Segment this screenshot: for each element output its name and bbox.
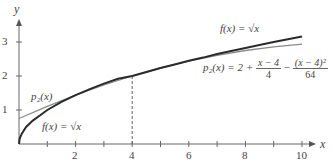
frac1-den: 4 [256,69,281,80]
p2-label-left: p₂(x) [31,90,53,102]
y-tick-label-2: 2 [2,69,8,81]
y-tick-label-3: 3 [2,35,8,47]
f-label-top: f(x) = √x [220,22,259,34]
x-tick-label-8: 8 [242,149,248,161]
p2-eq-lhs: p₂(x) = 2 + [203,61,253,73]
x-axis-label: x [320,137,325,152]
p2-eq-frac1: x − 44 [256,57,281,80]
p2-equation: p₂(x) = 2 + x − 44 − (x − 4)²64 [203,57,328,80]
x-tick-label-6: 6 [186,149,192,161]
p2-eq-minus: − [284,61,290,73]
x-tick-label-4: 4 [129,149,135,161]
y-tick-label-1: 1 [2,103,8,115]
frac2-num: (x − 4)² [293,57,328,69]
y-axis-arrow-icon [16,19,22,26]
y-axis-label: y [14,2,19,17]
p2-curve [19,44,302,118]
x-tick-label-10: 10 [296,149,307,161]
f-label-bottom: f(x) = √x [42,120,81,132]
frac1-num: x − 4 [256,57,281,69]
chart-canvas [0,0,333,166]
x-axis-arrow-icon [309,141,316,147]
frac2-den: 64 [293,69,328,80]
p2-eq-frac2: (x − 4)²64 [293,57,328,80]
x-tick-label-2: 2 [72,149,78,161]
